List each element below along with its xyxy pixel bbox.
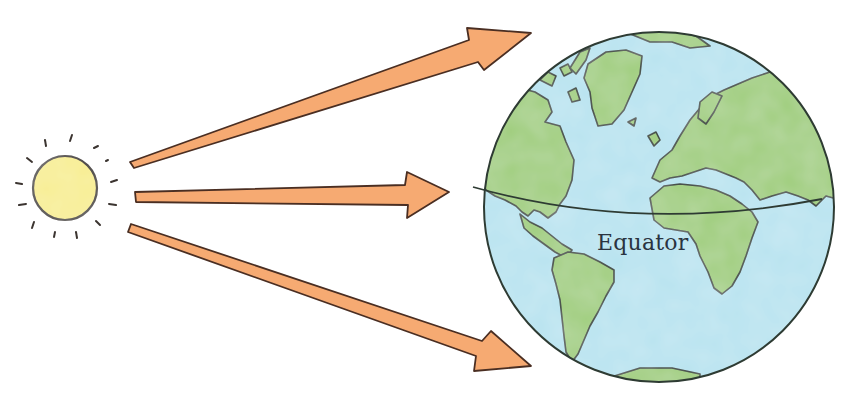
sun-icon [16, 135, 117, 238]
globe-icon [473, 28, 840, 399]
ray-bottom-arrow [128, 224, 531, 371]
sun-earth-diagram: Equator [0, 0, 843, 399]
sun-rays [128, 28, 531, 371]
ray-top-arrow [130, 28, 531, 168]
equator-label: Equator [597, 230, 688, 255]
ray-middle-arrow [135, 172, 449, 218]
